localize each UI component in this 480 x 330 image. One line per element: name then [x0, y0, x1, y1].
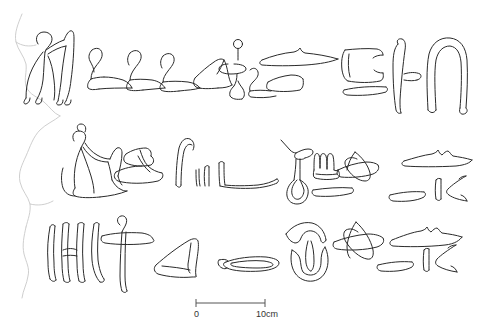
- glyph-kneeling-human-figure: [62, 124, 128, 198]
- glyph-open-box-c-shape: [342, 49, 384, 83]
- scale-bar: [196, 299, 265, 307]
- line-drawing-svg: [0, 0, 480, 330]
- register-3: [48, 216, 462, 293]
- register-2: [62, 124, 473, 204]
- glyph-thin-horizontal-dash-2: [377, 262, 414, 272]
- glyph-horizontal-flat-bar: [343, 87, 388, 96]
- glyph-inverted-u-arch: [427, 38, 467, 114]
- glyph-crescent-over-bowl-sign: [286, 223, 328, 282]
- glyph-low-angled-stroke-2: [267, 75, 304, 92]
- glyph-crenellated-three-peak-sign: [313, 154, 339, 180]
- glyph-angular-arrow-sign: [154, 239, 198, 278]
- figure-canvas: 0 10cm: [0, 0, 480, 330]
- scale-bar-end-label: 10cm: [256, 310, 278, 319]
- glyph-hooked-staff: [176, 138, 194, 187]
- glyph-feather-horizontal-sign: [402, 150, 472, 167]
- glyph-vertical-tick-and-chevron-2: [423, 245, 457, 272]
- scale-bar-start-label: 0: [194, 310, 199, 319]
- glyph-thin-horizontal-dash: [389, 192, 426, 202]
- glyph-horizontal-bar-with-notch: [260, 48, 338, 66]
- glyph-vertical-stroke-group: [48, 223, 105, 283]
- glyph-looped-sandal-strap: [287, 180, 308, 204]
- glyph-pointed-leaf-fish-sign-2: [333, 222, 384, 259]
- register-1: [24, 31, 468, 114]
- glyph-pointed-leaf-fish-sign: [337, 152, 379, 181]
- glyph-short-horizontal-bar: [312, 188, 354, 197]
- glyph-circle-on-pole-and-oval: [219, 40, 246, 100]
- glyph-vertical-tick-and-chevron: [435, 176, 467, 201]
- glyph-ankh-like-cross-sign: [101, 216, 154, 293]
- glyph-short-paired-strokes: [196, 166, 209, 187]
- glyph-vertical-with-side-hook: [393, 39, 421, 114]
- glyph-elongated-oval-mouth-sign: [218, 257, 279, 272]
- glyph-feather-horizontal-sign-2: [390, 227, 462, 247]
- glyph-seated-leg-sign-b: [127, 51, 165, 91]
- glyph-small-hook-sign: [249, 68, 276, 97]
- glyph-seated-leg-sign-c: [160, 54, 200, 92]
- glyph-reversed-l-base-line: [219, 162, 279, 189]
- glyph-branching-stem-sign: [281, 140, 313, 180]
- glyph-seated-leg-sign-a: [88, 48, 132, 89]
